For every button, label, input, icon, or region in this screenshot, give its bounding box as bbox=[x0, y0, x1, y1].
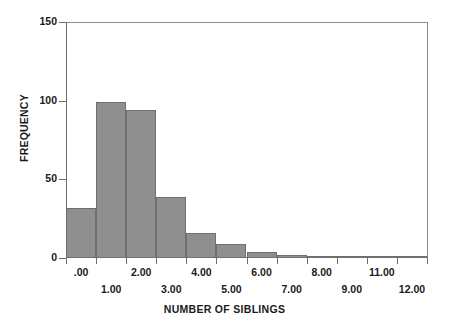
y-axis-tick bbox=[59, 258, 66, 259]
y-axis-tick-label: 150 bbox=[0, 15, 57, 27]
y-axis-title: FREQUENCY bbox=[18, 68, 30, 188]
histogram-figure: FREQUENCY 050100150 .001.002.003.004.005… bbox=[0, 0, 449, 330]
x-axis-tick bbox=[397, 258, 398, 264]
y-axis-tick bbox=[59, 101, 66, 102]
x-axis-tick bbox=[367, 258, 368, 264]
y-axis-tick bbox=[59, 179, 66, 180]
bar bbox=[307, 256, 337, 258]
x-axis-tick-label: 11.00 bbox=[359, 266, 405, 278]
x-axis-tick-label: 5.00 bbox=[208, 283, 254, 295]
bar bbox=[337, 256, 367, 258]
x-axis-tick bbox=[277, 258, 278, 264]
x-axis-tick bbox=[427, 258, 428, 264]
x-axis-tick-label: 9.00 bbox=[329, 283, 375, 295]
bar bbox=[277, 255, 307, 258]
bar bbox=[96, 102, 126, 258]
x-axis-tick bbox=[186, 258, 187, 264]
x-axis-tick bbox=[126, 258, 127, 264]
y-axis-tick bbox=[59, 22, 66, 23]
bar bbox=[126, 110, 156, 258]
x-axis-tick-label: 8.00 bbox=[299, 266, 345, 278]
y-axis-tick-label: 0 bbox=[0, 251, 57, 263]
x-axis-tick-label: 4.00 bbox=[178, 266, 224, 278]
x-axis-title: NUMBER OF SIBLINGS bbox=[0, 303, 449, 315]
x-axis-tick-label: 12.00 bbox=[389, 283, 435, 295]
bar bbox=[367, 256, 397, 258]
x-axis-tick bbox=[66, 258, 67, 264]
x-axis-tick bbox=[337, 258, 338, 264]
x-axis-tick-label: 2.00 bbox=[118, 266, 164, 278]
x-axis-tick-label: 7.00 bbox=[269, 283, 315, 295]
bar bbox=[156, 197, 186, 258]
bar bbox=[66, 208, 96, 258]
bar bbox=[216, 244, 246, 258]
x-axis-tick bbox=[247, 258, 248, 264]
x-axis-tick bbox=[216, 258, 217, 264]
x-axis-tick-label: 1.00 bbox=[88, 283, 134, 295]
x-axis-tick-label: 6.00 bbox=[239, 266, 285, 278]
bar bbox=[397, 256, 427, 258]
x-axis-tick bbox=[96, 258, 97, 264]
bar-series bbox=[66, 22, 427, 258]
bar bbox=[247, 252, 277, 258]
x-axis-tick bbox=[156, 258, 157, 264]
bar bbox=[186, 233, 216, 258]
x-axis-tick-label: .00 bbox=[58, 266, 104, 278]
y-axis-tick-label: 100 bbox=[0, 94, 57, 106]
y-axis-tick-label: 50 bbox=[0, 172, 57, 184]
x-axis-tick bbox=[307, 258, 308, 264]
x-axis-tick-label: 3.00 bbox=[148, 283, 194, 295]
